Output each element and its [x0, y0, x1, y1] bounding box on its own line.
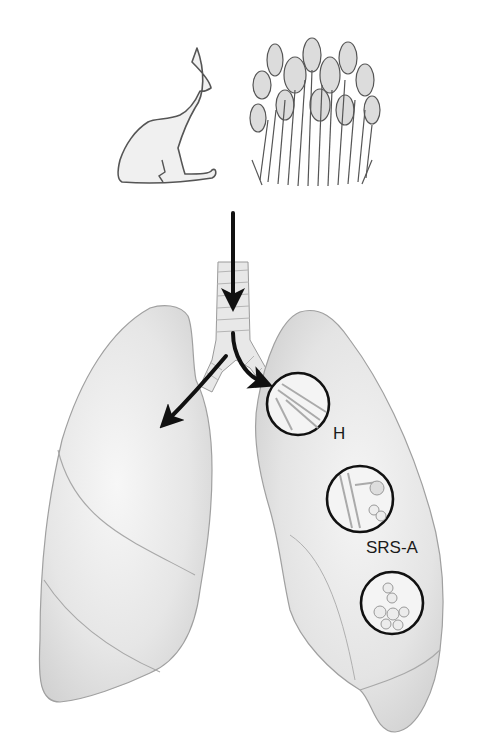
bronchiole-detail: [327, 466, 393, 532]
plant-icon: [250, 38, 380, 186]
allergy-lung-diagram: [0, 0, 478, 753]
alveoli-detail: [361, 572, 423, 634]
bronchus-detail: [267, 373, 329, 435]
cat-icon: [118, 48, 216, 183]
histamine-label: H: [333, 425, 345, 442]
srs-a-label: SRS-A: [366, 539, 418, 556]
left-lung: [39, 306, 212, 702]
